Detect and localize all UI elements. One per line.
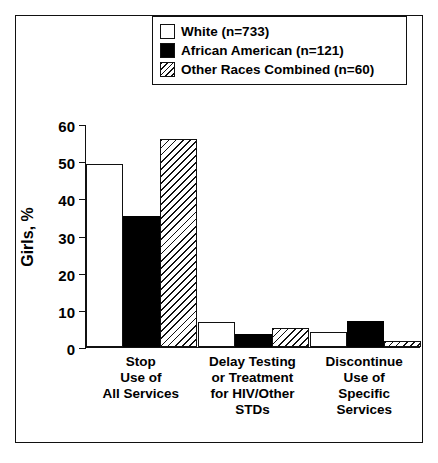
bar [86,164,123,347]
y-axis-tick-label: 0 [67,342,75,357]
open-white-square-icon [160,24,175,39]
y-axis-tick: 60 [79,125,86,126]
plot-area: 0102030405060 [85,125,420,348]
y-axis-tick: 20 [79,274,86,275]
y-axis-title-text: Girls, % [19,207,37,267]
y-axis-tick-label: 50 [58,156,75,171]
chart-figure: White (n=733) African American (n=121) O… [0,0,438,463]
x-axis-group-label: Stop Use of All Services [79,354,203,402]
y-axis-tick-label: 10 [58,304,75,319]
legend-label: Other Races Combined (n=60) [181,62,374,77]
filled-black-square-icon [160,43,175,58]
legend-label: African American (n=121) [181,43,344,58]
legend-item-other-races: Other Races Combined (n=60) [160,60,399,79]
y-axis-tick-label: 60 [58,119,75,134]
bar [160,139,197,347]
diagonal-hatched-square-icon [160,62,175,77]
y-axis-tick-label: 20 [58,267,75,282]
bar [123,216,160,347]
y-axis-tick: 10 [79,311,86,312]
x-axis-group-label: Discontinue Use of Specific Services [302,354,426,418]
legend-item-african-american: African American (n=121) [160,41,399,60]
y-axis-title: Girls, % [18,125,38,348]
chart-legend: White (n=733) African American (n=121) O… [152,16,407,85]
bar [198,322,235,347]
y-axis-tick: 50 [79,162,86,163]
y-axis-tick-label: 30 [58,230,75,245]
bar [235,334,272,347]
y-axis-tick: 0 [79,348,86,349]
y-axis-tick: 30 [79,237,86,238]
bar [310,332,347,347]
legend-label: White (n=733) [181,24,269,39]
y-axis-tick-label: 40 [58,193,75,208]
bar [384,341,421,347]
y-axis-tick: 40 [79,199,86,200]
legend-item-white: White (n=733) [160,22,399,41]
x-axis-group-label: Delay Testing or Treatment for HIV/Other… [191,354,315,418]
bar [272,328,309,347]
bar [347,321,384,347]
